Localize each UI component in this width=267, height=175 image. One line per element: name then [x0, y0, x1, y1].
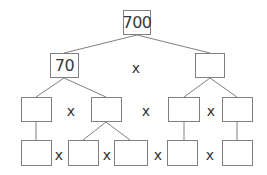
- node-box-l3-e[interactable]: [222, 140, 253, 166]
- node-box-l2-c[interactable]: [168, 97, 200, 122]
- edge-root-to-l1-right: [137, 35, 210, 53]
- node-box-root: 700: [123, 10, 151, 35]
- node-box-l2-b[interactable]: [91, 97, 122, 122]
- edge-l2-b-to-l3-b: [83, 122, 106, 140]
- times-sign: x: [103, 148, 111, 162]
- node-box-l3-d[interactable]: [167, 140, 198, 166]
- times-sign: x: [207, 104, 215, 118]
- times-sign: x: [154, 148, 162, 162]
- times-sign: x: [132, 61, 140, 75]
- node-box-l3-c[interactable]: [114, 140, 148, 166]
- node-box-l3-a[interactable]: [21, 140, 52, 166]
- times-sign: x: [55, 148, 63, 162]
- node-box-l1-left: 70: [50, 53, 79, 78]
- edge-l1-right-to-l2-c: [184, 78, 210, 97]
- edge-l1-left-to-l2-a: [36, 78, 64, 97]
- times-sign: x: [142, 104, 150, 118]
- edge-l1-right-to-l2-d: [210, 78, 237, 97]
- times-sign: x: [67, 104, 75, 118]
- node-box-l2-d[interactable]: [222, 97, 253, 122]
- node-box-l1-right[interactable]: [195, 53, 225, 78]
- edge-l1-left-to-l2-b: [64, 78, 106, 97]
- times-sign: x: [206, 148, 214, 162]
- edge-root-to-l1-left: [64, 35, 137, 53]
- node-box-l2-a[interactable]: [21, 97, 52, 122]
- edge-l2-b-to-l3-c: [106, 122, 130, 140]
- node-box-l3-b[interactable]: [68, 140, 99, 166]
